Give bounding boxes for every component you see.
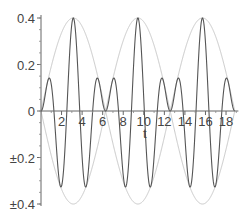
y-tick-label: ±0.4 bbox=[10, 197, 35, 212]
y-tick-label: 0 bbox=[28, 104, 35, 119]
x-tick-label: 12 bbox=[157, 114, 171, 129]
envelope-upper-curve bbox=[41, 18, 235, 111]
y-tick-label: ±0.2 bbox=[10, 151, 35, 166]
signal-curve bbox=[41, 18, 235, 187]
x-tick-label: 18 bbox=[219, 114, 233, 129]
x-tick-label: 14 bbox=[178, 114, 192, 129]
x-tick-label: 16 bbox=[198, 114, 212, 129]
x-tick-label: 6 bbox=[99, 114, 106, 129]
x-tick-label: 2 bbox=[58, 114, 65, 129]
y-tick-label: 0.2 bbox=[17, 58, 35, 73]
x-tick-label: 4 bbox=[79, 114, 86, 129]
x-tick-label: 8 bbox=[120, 114, 127, 129]
x-axis-label: t bbox=[143, 126, 147, 141]
chart: 246810121416180.40.20±0.2±0.4t bbox=[0, 0, 240, 220]
y-tick-label: 0.4 bbox=[17, 11, 35, 26]
